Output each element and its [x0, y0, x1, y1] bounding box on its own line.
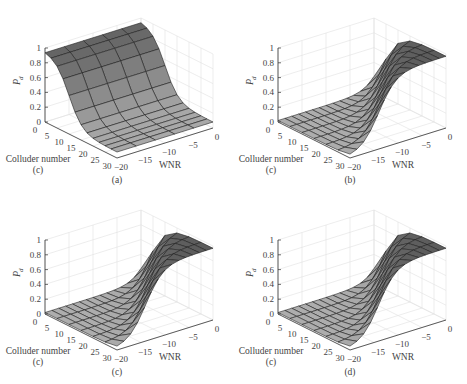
- colluder-tick-label: 20: [312, 341, 322, 351]
- colluder-tick-label: 30: [336, 161, 346, 171]
- panel-b: 00.20.40.60.81051015202530−20−15−10−50Pd…: [233, 0, 466, 192]
- z-tick-label: 1: [270, 43, 275, 53]
- z-tick-label: 0.4: [30, 87, 42, 97]
- colluder-tick-label: 15: [67, 143, 77, 153]
- wnr-tick-label: −5: [188, 140, 198, 150]
- z-tick-label: 0.4: [263, 87, 275, 97]
- wnr-tick-label: −20: [347, 354, 362, 364]
- wnr-tick-label: −15: [371, 155, 386, 165]
- z-tick-label: 0: [37, 117, 42, 127]
- colluder-tick-label: 15: [300, 143, 310, 153]
- wnr-tick-label: −20: [114, 162, 129, 172]
- svg-text:d: d: [17, 76, 25, 80]
- colluder-axis-label: Colluder number: [6, 154, 71, 164]
- wnr-tick-label: −10: [162, 339, 177, 349]
- svg-text:(c): (c): [33, 357, 44, 368]
- z-tick-label: 1: [37, 43, 42, 53]
- wnr-tick-label: −15: [371, 347, 386, 357]
- panel-d: 00.20.40.60.81051015202530−20−15−10−50Pd…: [233, 192, 466, 384]
- wnr-tick-label: −10: [395, 147, 410, 157]
- wnr-tick-label: −10: [395, 339, 410, 349]
- panel-a: 00.20.40.60.81051015202530−20−15−10−50Pd…: [0, 0, 233, 192]
- wnr-tick-label: −5: [421, 332, 431, 342]
- colluder-tick-label: 30: [103, 353, 113, 363]
- svg-text:(c): (c): [266, 357, 277, 368]
- wnr-tick-label: −20: [347, 162, 362, 172]
- z-tick-label: 1: [37, 235, 42, 245]
- surface-plot: 00.20.40.60.81051015202530−20−15−10−50Pd…: [233, 0, 466, 192]
- wnr-tick-label: 0: [448, 324, 453, 334]
- z-tick-label: 0: [270, 117, 275, 127]
- z-tick-label: 1: [270, 235, 275, 245]
- colluder-tick-label: 25: [91, 155, 101, 165]
- colluder-tick-label: 10: [288, 137, 298, 147]
- z-tick-label: 0.6: [30, 73, 42, 83]
- wnr-axis-label: WNR: [392, 352, 415, 362]
- z-tick-label: 0.2: [30, 294, 41, 304]
- panel-caption: (c): [112, 367, 123, 378]
- colluder-tick-label: 5: [278, 131, 283, 141]
- z-tick-label: 0.2: [30, 102, 41, 112]
- colluder-tick-label: 15: [300, 335, 310, 345]
- colluder-tick-label: 10: [55, 137, 65, 147]
- colluder-tick-label: 30: [336, 353, 346, 363]
- z-tick-label: 0.8: [30, 250, 42, 260]
- colluder-tick-label: 20: [79, 341, 89, 351]
- colluder-tick-label: 25: [324, 155, 334, 165]
- colluder-tick-label: 10: [288, 329, 298, 339]
- svg-text:d: d: [17, 268, 25, 272]
- colluder-tick-label: 0: [33, 125, 38, 135]
- z-tick-label: 0.6: [263, 73, 275, 83]
- wnr-tick-label: −5: [188, 332, 198, 342]
- svg-text:(c): (c): [266, 165, 277, 176]
- surface-plot: 00.20.40.60.81051015202530−20−15−10−50Pd…: [0, 0, 233, 192]
- panel-caption: (b): [344, 175, 355, 186]
- svg-text:d: d: [250, 268, 258, 272]
- wnr-tick-label: −10: [162, 147, 177, 157]
- colluder-tick-label: 25: [91, 347, 101, 357]
- z-tick-label: 0.2: [263, 102, 274, 112]
- wnr-tick-label: 0: [215, 132, 220, 142]
- colluder-tick-label: 0: [266, 317, 271, 327]
- wnr-tick-label: −5: [421, 140, 431, 150]
- colluder-tick-label: 5: [278, 323, 283, 333]
- z-tick-label: 0.8: [263, 58, 275, 68]
- colluder-axis-label: Colluder number: [6, 346, 71, 356]
- colluder-tick-label: 5: [45, 131, 50, 141]
- svg-text:(c): (c): [33, 165, 44, 176]
- z-tick-label: 0.6: [30, 265, 42, 275]
- wnr-axis-label: WNR: [392, 160, 415, 170]
- z-tick-label: 0.8: [263, 250, 275, 260]
- colluder-axis-label: Colluder number: [239, 346, 304, 356]
- panel-c: 00.20.40.60.81051015202530−20−15−10−50Pd…: [0, 192, 233, 384]
- z-tick-label: 0.8: [30, 58, 42, 68]
- colluder-tick-label: 0: [33, 317, 38, 327]
- colluder-tick-label: 0: [266, 125, 271, 135]
- colluder-tick-label: 20: [79, 149, 89, 159]
- colluder-tick-label: 25: [324, 347, 334, 357]
- colluder-tick-label: 5: [45, 323, 50, 333]
- z-tick-label: 0: [270, 309, 275, 319]
- wnr-tick-label: 0: [215, 324, 220, 334]
- colluder-tick-label: 10: [55, 329, 65, 339]
- z-tick-label: 0.4: [263, 279, 275, 289]
- panel-caption: (a): [112, 175, 123, 186]
- wnr-axis-label: WNR: [159, 160, 182, 170]
- z-tick-label: 0.6: [263, 265, 275, 275]
- z-tick-label: 0.4: [30, 279, 42, 289]
- wnr-tick-label: −15: [138, 155, 153, 165]
- colluder-tick-label: 20: [312, 149, 322, 159]
- wnr-tick-label: 0: [448, 132, 453, 142]
- wnr-tick-label: −15: [138, 347, 153, 357]
- colluder-tick-label: 15: [67, 335, 77, 345]
- wnr-tick-label: −20: [114, 354, 129, 364]
- z-tick-label: 0: [37, 309, 42, 319]
- surface-plot: 00.20.40.60.81051015202530−20−15−10−50Pd…: [233, 192, 466, 384]
- z-tick-label: 0.2: [263, 294, 274, 304]
- wnr-axis-label: WNR: [159, 352, 182, 362]
- colluder-tick-label: 30: [103, 161, 113, 171]
- colluder-axis-label: Colluder number: [239, 154, 304, 164]
- svg-text:d: d: [250, 76, 258, 80]
- surface-plot: 00.20.40.60.81051015202530−20−15−10−50Pd…: [0, 192, 233, 384]
- panel-caption: (d): [344, 367, 355, 378]
